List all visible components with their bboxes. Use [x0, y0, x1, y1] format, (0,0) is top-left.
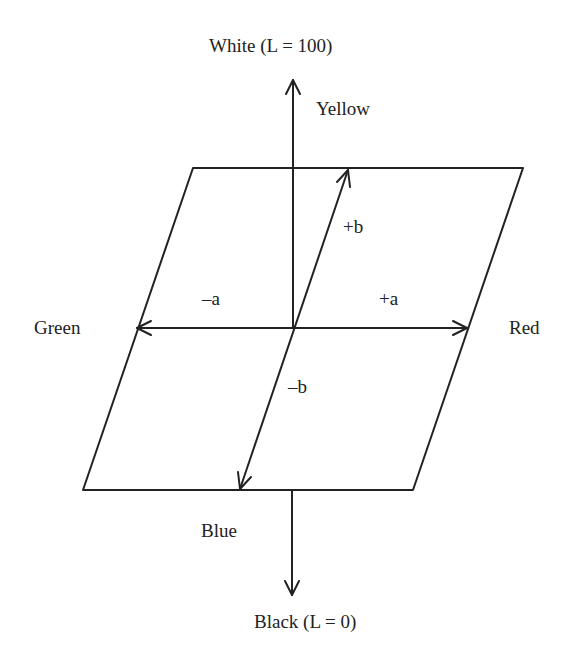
label-minus-b: –b [288, 377, 307, 396]
label-minus-a: –a [202, 289, 220, 308]
lab-color-space-diagram: White (L = 100) Yellow +b –a +a Green Re… [0, 0, 573, 663]
label-yellow: Yellow [316, 99, 370, 118]
label-black-l0: Black (L = 0) [254, 612, 356, 631]
label-red: Red [509, 318, 540, 337]
label-blue: Blue [201, 521, 237, 540]
label-green: Green [34, 318, 80, 337]
label-plus-a: +a [379, 289, 398, 308]
label-white-l100: White (L = 100) [209, 36, 332, 55]
label-plus-b: +b [343, 217, 363, 236]
diagram-canvas [0, 0, 573, 663]
